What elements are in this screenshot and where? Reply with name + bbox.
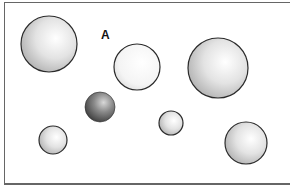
sphere-4 (85, 92, 115, 122)
sphere-6 (159, 111, 183, 135)
spheres-canvas (0, 0, 290, 191)
sphere-5 (39, 126, 67, 154)
sphere-7 (225, 122, 267, 164)
sphere-2 (114, 44, 160, 90)
sphere-1 (21, 16, 77, 72)
sphere-3 (188, 38, 248, 98)
